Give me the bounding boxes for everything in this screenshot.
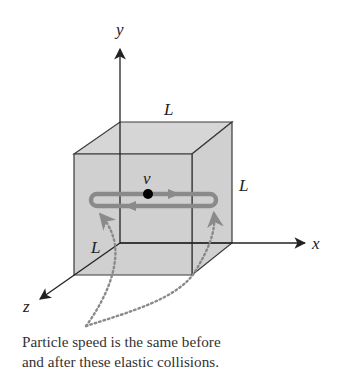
particle-in-box-diagram: y x z L L L v <box>0 0 343 382</box>
depth-edge-length-label: L <box>90 238 100 257</box>
caption-line-2: and after these elastic collisions. <box>22 352 332 372</box>
velocity-label: v <box>143 169 151 188</box>
z-axis-label: z <box>22 297 30 316</box>
figure-caption: Particle speed is the same before and af… <box>22 332 332 372</box>
y-axis-label: y <box>114 20 124 39</box>
x-axis-label: x <box>311 234 320 253</box>
caption-line-1: Particle speed is the same before <box>22 332 332 352</box>
top-edge-length-label: L <box>163 100 173 119</box>
particle-dot <box>143 189 153 199</box>
right-edge-length-label: L <box>238 176 248 195</box>
